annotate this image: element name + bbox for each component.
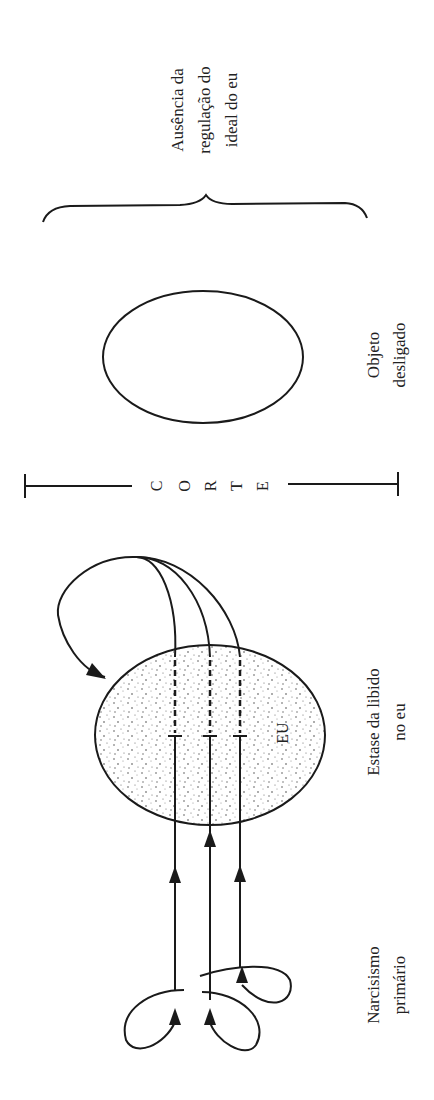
- svg-text:Ausência da: Ausência da: [168, 68, 187, 152]
- svg-text:Estase da libido: Estase da libido: [364, 668, 383, 776]
- svg-text:primário: primário: [390, 956, 409, 1015]
- svg-text:no eu: no eu: [390, 703, 409, 741]
- narcissism-loops: [125, 967, 291, 1051]
- svg-text:C: C: [148, 481, 165, 492]
- ego-stasis-label: Estase da libido no eu: [364, 668, 409, 776]
- curly-brace: [43, 195, 367, 222]
- svg-text:R: R: [202, 480, 219, 491]
- svg-text:ideal do eu: ideal do eu: [222, 72, 241, 147]
- ego-label: EU: [274, 722, 291, 744]
- detached-object-label: Objeto desligado: [364, 322, 409, 387]
- svg-text:regulação do: regulação do: [195, 66, 214, 153]
- return-arrow-head: [86, 663, 106, 679]
- svg-text:Narcisismo: Narcisismo: [364, 946, 383, 1023]
- cut-label: C O R T E: [148, 480, 271, 492]
- primary-narcissism-label: Narcisismo primário: [364, 946, 409, 1023]
- libido-arrowheads: [169, 830, 248, 1025]
- svg-text:E: E: [254, 481, 271, 491]
- diagram-canvas: Ausência da regulação do ideal do eu Obj…: [0, 0, 434, 1100]
- ideal-absence-label: Ausência da regulação do ideal do eu: [168, 66, 241, 153]
- svg-text:O: O: [176, 480, 193, 492]
- svg-text:T: T: [228, 481, 245, 491]
- svg-text:desligado: desligado: [390, 322, 409, 387]
- detached-object-ellipse: [103, 291, 303, 423]
- svg-text:Objeto: Objeto: [364, 332, 383, 378]
